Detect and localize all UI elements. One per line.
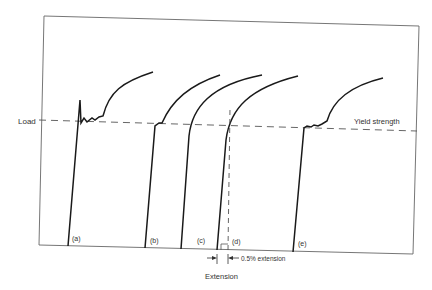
arrow-head-right — [228, 256, 233, 260]
curve-label-b: (b) — [150, 237, 159, 245]
offset-label: 0.5% extension — [241, 255, 286, 262]
curve-label-a: (a) — [72, 235, 81, 243]
curve-label-d: (d) — [232, 238, 241, 246]
x-axis-label: Extension — [205, 272, 238, 281]
plot-frame — [39, 16, 419, 254]
curve-label-e: (e) — [298, 240, 307, 248]
load-extension-diagram: Load Yield strength (a) (b) (c) (d) (e) … — [0, 0, 432, 290]
curve-e — [293, 78, 383, 252]
curve-c — [181, 75, 262, 249]
yield-strength-label: Yield strength — [354, 117, 400, 126]
curve-a — [68, 72, 153, 246]
curve-d — [217, 76, 298, 250]
arrow-head-left — [212, 256, 217, 260]
y-axis-label: Load — [18, 117, 36, 126]
curve-label-c: (c) — [197, 237, 205, 245]
